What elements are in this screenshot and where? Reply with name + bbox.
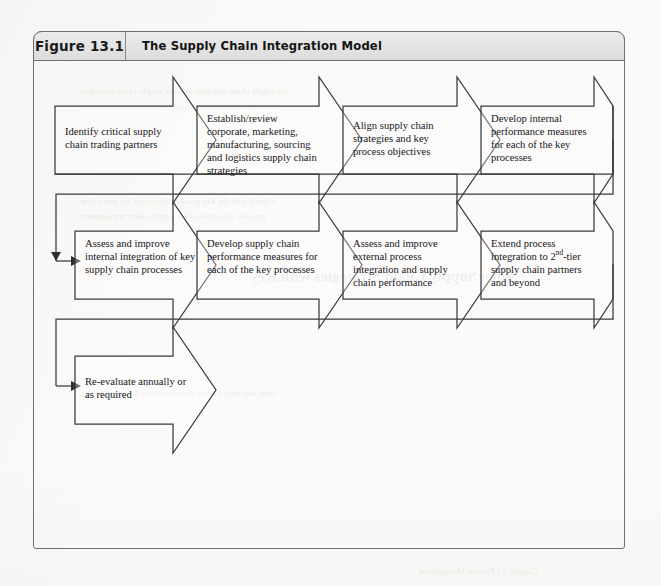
- step-label-step-4: Develop internal performance measures fo…: [491, 112, 597, 164]
- step-label-step-9: Re-evaluate annually or as required: [85, 375, 195, 401]
- figure-label: Figure 13.1: [34, 32, 126, 60]
- process-flow-diagram: Identify critical supply chain trading p…: [33, 61, 625, 549]
- figure-title: The Supply Chain Integration Model: [126, 32, 624, 60]
- step-label-step-5: Assess and improve internal integration …: [85, 237, 197, 276]
- figure-label-text: Figure 13.1: [35, 38, 124, 54]
- step-label-step-2: Establish/review corporate, marketing, m…: [207, 112, 321, 177]
- figure-header: Figure 13.1 The Supply Chain Integration…: [33, 31, 625, 61]
- figure-title-text: The Supply Chain Integration Model: [142, 39, 382, 53]
- step-label-step-3: Align supply chain strategies and key pr…: [353, 119, 457, 158]
- connector-arrowhead-row2: [51, 252, 61, 261]
- step-label-step-1: Identify critical supply chain trading p…: [65, 125, 169, 151]
- step-label-step-6: Develop supply chain performance measure…: [207, 237, 321, 276]
- step-label-step-8: Extend process integration to 2nd-tier s…: [491, 237, 599, 289]
- step-label-step-7: Assess and improve external process inte…: [353, 237, 459, 289]
